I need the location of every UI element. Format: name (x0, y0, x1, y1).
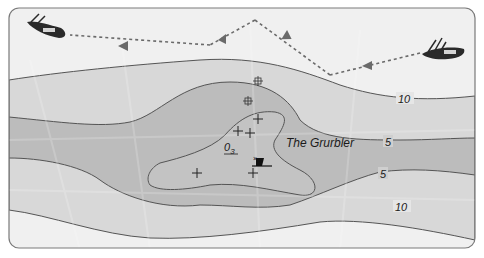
svg-text:×: × (253, 155, 257, 162)
svg-text:5: 5 (385, 136, 392, 148)
contour-label-upper-middle: 5 (383, 135, 393, 148)
nautical-chart: × 03 The Grurbler 10 5 5 10 (0, 0, 484, 258)
contour-label-upper-outer: 10 (396, 92, 414, 105)
svg-text:10: 10 (398, 93, 411, 105)
hazard-name: The Grurbler (286, 136, 355, 150)
map-area (9, 8, 475, 250)
svg-text:10: 10 (395, 201, 408, 213)
svg-text:5: 5 (380, 168, 387, 180)
contour-label-lower-middle: 5 (378, 167, 388, 180)
contour-label-lower-outer: 10 (393, 200, 411, 213)
